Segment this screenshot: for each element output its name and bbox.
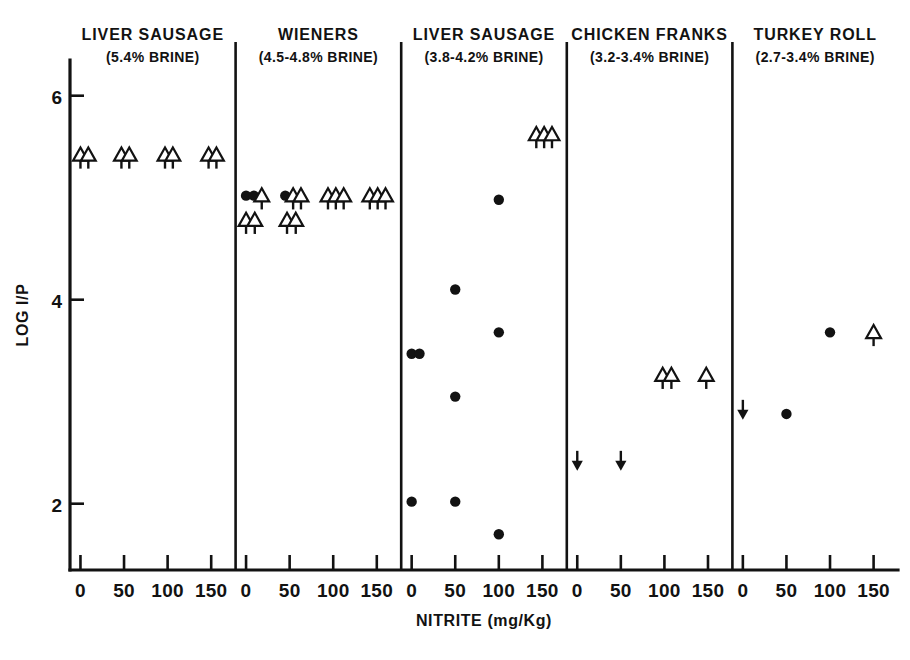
x-tick-label: 50 [610, 580, 632, 601]
x-tick-label: 100 [317, 580, 350, 601]
x-tick-label: 0 [572, 580, 583, 601]
data-point [866, 325, 881, 346]
data-point [494, 195, 504, 205]
data-point [664, 368, 679, 389]
data-point [572, 451, 583, 471]
x-tick-label: 150 [195, 580, 228, 601]
x-tick-label: 0 [241, 580, 252, 601]
panel-title: CHICKEN FRANKS [571, 26, 728, 43]
x-tick-label: 100 [151, 580, 184, 601]
data-point [737, 400, 748, 420]
data-point [450, 391, 460, 401]
data-point [825, 327, 835, 337]
data-point [450, 496, 460, 506]
y-axis-title: LOG I/P [14, 284, 31, 347]
data-point [699, 368, 714, 389]
y-tick-label: 6 [52, 87, 63, 108]
x-tick-label: 100 [814, 580, 847, 601]
x-tick-label: 100 [483, 580, 516, 601]
data-point [494, 529, 504, 539]
x-tick-label: 50 [279, 580, 301, 601]
x-tick-label: 100 [648, 580, 681, 601]
panel-subtitle: (3.8-4.2% BRINE) [424, 49, 543, 65]
y-tick-label: 4 [52, 291, 63, 312]
x-tick-label: 0 [737, 580, 748, 601]
data-point [247, 213, 262, 234]
x-axis-title: NITRITE (mg/Kg) [416, 612, 552, 629]
panel-subtitle: (5.4% BRINE) [106, 49, 199, 65]
x-tick-label: 150 [526, 580, 559, 601]
data-point [288, 213, 303, 234]
panel-title: WIENERS [278, 26, 359, 43]
x-tick-label: 50 [444, 580, 466, 601]
panel-subtitle: (4.5-4.8% BRINE) [259, 49, 378, 65]
x-tick-label: 150 [360, 580, 393, 601]
x-tick-label: 0 [75, 580, 86, 601]
data-point [406, 496, 416, 506]
panel-subtitle: (3.2-3.4% BRINE) [590, 49, 709, 65]
x-tick-label: 0 [406, 580, 417, 601]
panel-subtitle: (2.7-3.4% BRINE) [756, 49, 875, 65]
data-point [615, 451, 626, 471]
panel-title: TURKEY ROLL [754, 26, 877, 43]
data-point [494, 327, 504, 337]
figure-container: 246LOG I/PLIVER SAUSAGE(5.4% BRINE)05010… [0, 0, 910, 660]
x-tick-label: 150 [857, 580, 890, 601]
scatter-chart: 246LOG I/PLIVER SAUSAGE(5.4% BRINE)05010… [0, 0, 910, 660]
data-point [781, 409, 791, 419]
panel-title: LIVER SAUSAGE [82, 26, 224, 43]
data-point [450, 284, 460, 294]
x-tick-label: 50 [776, 580, 798, 601]
panel-title: LIVER SAUSAGE [413, 26, 555, 43]
x-tick-label: 50 [113, 580, 135, 601]
x-tick-label: 150 [692, 580, 725, 601]
data-point [414, 349, 424, 359]
y-tick-label: 2 [52, 495, 63, 516]
